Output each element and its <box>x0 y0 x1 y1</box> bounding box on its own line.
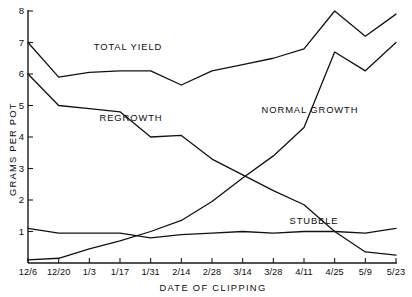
x-tick-label: 3/14 <box>234 267 252 277</box>
series-label-stubble: STUBBLE <box>289 215 338 226</box>
x-tick-label: 1/3 <box>83 267 96 277</box>
x-tick-label: 4/25 <box>326 267 344 277</box>
y-tick-label: 7 <box>19 37 24 48</box>
y-tick-label: 5 <box>19 100 24 111</box>
y-axis-title: GRAMS PER POT <box>7 102 18 196</box>
x-tick-label: 2/28 <box>203 267 221 277</box>
y-tick-label: 1 <box>19 226 24 237</box>
y-tick-label: 3 <box>19 163 24 174</box>
x-tick-label: 12/6 <box>19 267 37 277</box>
x-tick-label: 5/23 <box>387 267 405 277</box>
x-tick-label: 1/17 <box>111 267 129 277</box>
x-tick-label: 12/20 <box>47 267 71 277</box>
chart-figure: 12345678 12/612/201/31/171/312/142/283/1… <box>0 0 412 297</box>
x-tick-label: 5/9 <box>359 267 372 277</box>
x-tick-label: 1/31 <box>142 267 160 277</box>
x-axis-title: DATE OF CLIPPING <box>159 282 266 293</box>
y-tick-label: 4 <box>19 131 25 142</box>
x-tick-label: 4/11 <box>295 267 313 277</box>
x-tick-label: 3/28 <box>264 267 282 277</box>
y-tick-label: 2 <box>19 194 24 205</box>
x-tick-label: 2/14 <box>172 267 190 277</box>
series-label-total-yield: TOTAL YIELD <box>94 41 162 52</box>
y-tick-label: 6 <box>19 68 24 79</box>
line-chart-canvas: 12345678 12/612/201/31/171/312/142/283/1… <box>0 0 412 297</box>
series-label-normal-growth: NORMAL GROWTH <box>262 104 359 115</box>
y-tick-label: 8 <box>19 5 24 16</box>
series-label-regrowth: REGROWTH <box>100 112 163 123</box>
chart-background <box>0 0 412 297</box>
